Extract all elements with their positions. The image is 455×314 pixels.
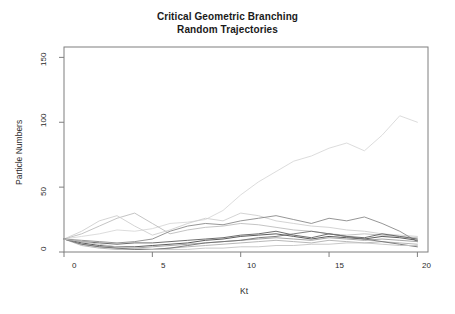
trajectory-5 [64, 231, 417, 244]
trajectory-lines [64, 116, 417, 250]
plot-box [64, 47, 428, 252]
axis-ticks [59, 57, 417, 257]
chart-figure: Critical Geometric Branching Random Traj… [0, 0, 455, 314]
plot-area [0, 0, 455, 314]
